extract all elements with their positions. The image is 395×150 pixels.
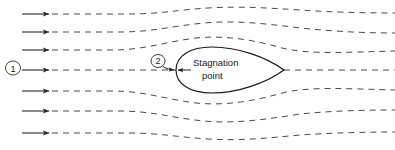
streamline-6 — [22, 110, 395, 122]
streamline-6-path — [52, 110, 395, 122]
callout-two-label: 2 — [155, 56, 160, 66]
callout-two-leader-line — [163, 67, 174, 71]
flow-diagram-figure: 1 2 Stagnation point — [0, 0, 395, 150]
streamline-1-path — [52, 7, 395, 14]
streamline-7-path — [52, 132, 395, 140]
streamline-7 — [22, 132, 395, 140]
stagnation-label-line2: point — [202, 70, 223, 81]
streamline-2-path — [52, 22, 395, 33]
callout-one-label: 1 — [10, 64, 15, 74]
streamline-2 — [22, 22, 395, 33]
callout-point-two: 2 — [151, 55, 174, 71]
streamline-1 — [22, 7, 395, 14]
teardrop-body — [176, 47, 284, 93]
streamline-diagram-canvas: 1 2 Stagnation point — [0, 0, 395, 150]
stagnation-label-line1: Stagnation — [193, 57, 238, 68]
callout-point-one: 1 — [6, 61, 21, 75]
